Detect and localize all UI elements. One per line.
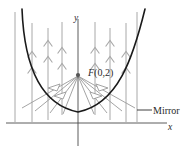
incoming-ray bbox=[44, 28, 53, 120]
x-axis-label: x bbox=[168, 123, 172, 133]
y-axis-label: y bbox=[74, 14, 78, 24]
focus-point-label: F(0,2) bbox=[88, 68, 113, 78]
reflected-ray bbox=[22, 76, 78, 108]
incoming-ray bbox=[28, 23, 37, 122]
reflected-ray bbox=[78, 76, 122, 111]
focus-coords: (0,2) bbox=[94, 67, 113, 78]
parabolic-mirror-figure: F(0,2) Mirror y x bbox=[0, 0, 190, 149]
mirror-label: Mirror bbox=[153, 106, 180, 116]
mirror-curve bbox=[22, 9, 145, 112]
incoming-ray-group bbox=[15, 12, 137, 122]
mirror-curve-group bbox=[22, 9, 145, 112]
focus-point-dot bbox=[76, 73, 80, 77]
